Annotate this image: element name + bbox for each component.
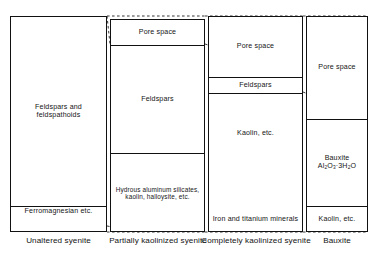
band-label: Iron and titanium minerals <box>209 216 302 232</box>
band-label: Feldspars and feldspathoids <box>11 104 106 120</box>
band-kaolin: Kaolin, etc. <box>307 206 367 232</box>
band-label: Feldspars <box>209 82 302 90</box>
formula-o-end: O <box>350 162 356 170</box>
band-hydrous-aluminum-silicates: Hydrous aluminum silicates, kaolin, hall… <box>111 153 204 232</box>
column-unaltered-syenite: Feldspars and feldspathoids Ferromagnesi… <box>10 16 107 232</box>
caption-text: Completely kaolinized syenite <box>201 236 311 245</box>
band-label: Pore space <box>209 43 302 51</box>
column-bauxite: Pore space Bauxite Al2O3·3H2O Kaolin, et… <box>306 16 368 232</box>
band-label: Pore space <box>307 64 367 72</box>
caption-unaltered-syenite: Unaltered syenite <box>0 236 117 246</box>
caption-text: Bauxite <box>323 236 351 245</box>
band-pore-space: Pore space <box>111 20 204 45</box>
band-label: Kaolin, etc. <box>209 130 302 138</box>
band-kaolin: Kaolin, etc. <box>209 93 302 174</box>
caption-text: Partially kaolinized syenite <box>109 236 207 245</box>
caption-bauxite: Bauxite <box>306 236 368 246</box>
band-label: Ferromagnesian etc. <box>11 207 106 216</box>
band-label: Feldspars <box>111 96 204 104</box>
band-label-with-formula: Bauxite Al2O3·3H2O <box>307 155 367 171</box>
caption-partially-kaolinized-syenite: Partially kaolinized syenite <box>103 236 213 246</box>
caption-text: Unaltered syenite <box>26 236 91 245</box>
formula-dot-3h: ·3H <box>336 162 348 170</box>
band-pore-space: Pore space <box>307 17 367 119</box>
band-label: Kaolin, etc. <box>307 216 367 224</box>
band-feldspars: Feldspars <box>209 77 302 93</box>
band-feldspars-feldspathoids: Feldspars and feldspathoids <box>11 17 106 206</box>
band-label: Pore space <box>111 29 204 37</box>
band-feldspars: Feldspars <box>111 45 204 153</box>
weathering-sequence-diagram: Feldspars and feldspathoids Ferromagnesi… <box>0 0 378 267</box>
band-label: Hydrous aluminum silicates, kaolin, hall… <box>111 186 204 200</box>
band-ferromagnesian: Ferromagnesian etc. <box>11 206 106 232</box>
bauxite-formula: Al2O3·3H2O <box>318 162 356 170</box>
column-partially-kaolinized-syenite: Pore space Feldspars Hydrous aluminum si… <box>110 19 205 232</box>
bauxite-name: Bauxite <box>325 154 350 162</box>
caption-completely-kaolinized-syenite: Completely kaolinized syenite <box>200 236 312 246</box>
band-iron-titanium-minerals: Iron and titanium minerals <box>209 174 302 232</box>
band-pore-space: Pore space <box>209 17 302 77</box>
column-completely-kaolinized-syenite: Pore space Feldspars Kaolin, etc. Iron a… <box>208 16 303 232</box>
band-bauxite: Bauxite Al2O3·3H2O <box>307 119 367 206</box>
